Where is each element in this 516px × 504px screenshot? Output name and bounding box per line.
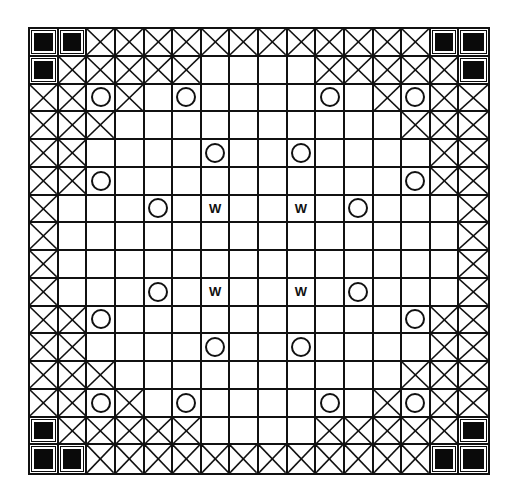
- board-cell-crossed[interactable]: [345, 29, 374, 57]
- board-cell-crossed[interactable]: [30, 223, 59, 251]
- board-cell-circle[interactable]: [145, 196, 174, 224]
- board-cell-empty[interactable]: [116, 196, 145, 224]
- board-cell-crossed[interactable]: [459, 307, 488, 335]
- board-cell-empty[interactable]: [259, 196, 288, 224]
- board-cell-empty[interactable]: [374, 140, 403, 168]
- board-cell-crossed[interactable]: [374, 57, 403, 85]
- board-cell-crossed[interactable]: [59, 307, 88, 335]
- board-cell-empty[interactable]: [145, 251, 174, 279]
- board-cell-crossed[interactable]: [116, 445, 145, 473]
- board-cell-crossed[interactable]: [374, 418, 403, 446]
- board-cell-crossed[interactable]: [459, 112, 488, 140]
- board-cell-empty[interactable]: [316, 279, 345, 307]
- board-cell-empty[interactable]: [345, 140, 374, 168]
- board-cell-crossed[interactable]: [374, 390, 403, 418]
- board-cell-empty[interactable]: [374, 223, 403, 251]
- board-cell-crossed[interactable]: [345, 57, 374, 85]
- board-cell-crossed[interactable]: [30, 196, 59, 224]
- board-cell-empty[interactable]: [116, 168, 145, 196]
- board-cell-empty[interactable]: [316, 307, 345, 335]
- board-cell-filled[interactable]: [459, 445, 488, 473]
- board-cell-crossed[interactable]: [459, 85, 488, 113]
- board-cell-circle[interactable]: [402, 85, 431, 113]
- board-cell-empty[interactable]: [173, 223, 202, 251]
- board-cell-empty[interactable]: [202, 57, 231, 85]
- board-cell-empty[interactable]: [116, 279, 145, 307]
- board-cell-crossed[interactable]: [59, 418, 88, 446]
- board-cell-crossed[interactable]: [431, 334, 460, 362]
- board-cell-empty[interactable]: [202, 85, 231, 113]
- board-cell-empty[interactable]: [202, 362, 231, 390]
- board-cell-empty[interactable]: [230, 223, 259, 251]
- board-cell-empty[interactable]: [59, 279, 88, 307]
- board-cell-empty[interactable]: [202, 223, 231, 251]
- board-cell-crossed[interactable]: [59, 85, 88, 113]
- board-cell-empty[interactable]: [116, 307, 145, 335]
- board-cell-circle[interactable]: [145, 279, 174, 307]
- board-cell-crossed[interactable]: [431, 112, 460, 140]
- board-cell-empty[interactable]: [288, 251, 317, 279]
- board-cell-empty[interactable]: [374, 334, 403, 362]
- board-cell-empty[interactable]: [259, 112, 288, 140]
- board-cell-empty[interactable]: [259, 279, 288, 307]
- board-cell-empty[interactable]: [288, 418, 317, 446]
- board-cell-empty[interactable]: [316, 223, 345, 251]
- board-cell-filled[interactable]: [30, 445, 59, 473]
- board-cell-crossed[interactable]: [30, 168, 59, 196]
- board-cell-empty[interactable]: [116, 112, 145, 140]
- board-cell-empty[interactable]: [173, 251, 202, 279]
- board-cell-crossed[interactable]: [87, 418, 116, 446]
- board-cell-empty[interactable]: [145, 390, 174, 418]
- board-cell-crossed[interactable]: [402, 362, 431, 390]
- board-cell-crossed[interactable]: [431, 85, 460, 113]
- board-cell-empty[interactable]: [259, 251, 288, 279]
- board-cell-empty[interactable]: [316, 168, 345, 196]
- board-cell-crossed[interactable]: [431, 307, 460, 335]
- board-cell-crossed[interactable]: [30, 390, 59, 418]
- board-cell-empty[interactable]: [259, 418, 288, 446]
- board-cell-empty[interactable]: [402, 334, 431, 362]
- board-cell-empty[interactable]: [230, 168, 259, 196]
- board-cell-empty[interactable]: [345, 390, 374, 418]
- board-cell-empty[interactable]: [374, 168, 403, 196]
- board-cell-crossed[interactable]: [459, 279, 488, 307]
- board-cell-filled[interactable]: [459, 57, 488, 85]
- board-cell-empty[interactable]: [87, 196, 116, 224]
- board-cell-crossed[interactable]: [30, 140, 59, 168]
- board-cell-crossed[interactable]: [59, 362, 88, 390]
- board-cell-crossed[interactable]: [59, 112, 88, 140]
- board-cell-empty[interactable]: [59, 251, 88, 279]
- board-cell-empty[interactable]: [173, 279, 202, 307]
- board-cell-crossed[interactable]: [30, 85, 59, 113]
- board-cell-crossed[interactable]: [87, 57, 116, 85]
- board-cell-empty[interactable]: [259, 307, 288, 335]
- board-cell-crossed[interactable]: [87, 445, 116, 473]
- board-cell-empty[interactable]: [345, 168, 374, 196]
- board-cell-crossed[interactable]: [288, 29, 317, 57]
- board-cell-crossed[interactable]: [116, 390, 145, 418]
- board-cell-crossed[interactable]: [316, 57, 345, 85]
- board-cell-empty[interactable]: [374, 279, 403, 307]
- board-cell-crossed[interactable]: [87, 112, 116, 140]
- board-cell-empty[interactable]: [259, 168, 288, 196]
- board-cell-circle[interactable]: [288, 140, 317, 168]
- board-cell-crossed[interactable]: [30, 334, 59, 362]
- board-cell-empty[interactable]: [230, 334, 259, 362]
- board-cell-empty[interactable]: [145, 362, 174, 390]
- board-cell-empty[interactable]: [145, 168, 174, 196]
- board-cell-crossed[interactable]: [145, 29, 174, 57]
- board-cell-empty[interactable]: [145, 307, 174, 335]
- board-cell-empty[interactable]: [288, 168, 317, 196]
- board-cell-empty[interactable]: [173, 140, 202, 168]
- board-cell-circle[interactable]: [87, 307, 116, 335]
- board-cell-empty[interactable]: [230, 85, 259, 113]
- board-cell-filled[interactable]: [59, 445, 88, 473]
- board-cell-crossed[interactable]: [402, 57, 431, 85]
- board-cell-empty[interactable]: [230, 251, 259, 279]
- board-cell-filled[interactable]: [431, 445, 460, 473]
- board-cell-empty[interactable]: [87, 223, 116, 251]
- board-cell-empty[interactable]: [87, 251, 116, 279]
- board-cell-crossed[interactable]: [459, 362, 488, 390]
- board-cell-empty[interactable]: [345, 362, 374, 390]
- board-cell-crossed[interactable]: [459, 390, 488, 418]
